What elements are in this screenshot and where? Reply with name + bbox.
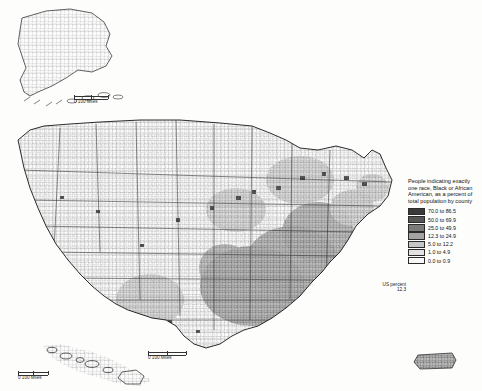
legend-label-0-0: 0.0 to 0.9 [428,258,450,264]
legend-swatch-5-12 [408,241,425,248]
legend-label-50-69: 50.0 to 69.9 [428,217,456,223]
legend-swatch-70-86 [408,208,425,215]
legend-label-5-12: 5.0 to 12.2 [428,241,453,247]
legend-label-70-86: 70.0 to 86.5 [428,208,456,214]
legend-swatch-1-4 [408,249,425,256]
legend-title: People indicating exactly one race, Blac… [408,178,478,204]
alaska-scalebar: 0 100 Miles [74,96,130,104]
legend-item[interactable]: 1.0 to 4.9 [408,248,478,256]
map-legend: People indicating exactly one race, Blac… [408,178,478,265]
legend-label-25-49: 25.0 to 49.9 [428,225,456,231]
legend-class-list: 70.0 to 86.5 50.0 to 69.9 25.0 to 49.9 1… [408,207,478,264]
legend-item[interactable]: 50.0 to 69.9 [408,216,478,224]
legend-swatch-0-0 [408,257,425,264]
conus-scalebar: 0 100 Miles [148,352,208,360]
legend-item[interactable]: 0.0 to 0.9 [408,257,478,265]
legend-swatch-25-49 [408,224,425,231]
hawaii-inset [40,340,160,390]
legend-label-12-24: 12.3 to 24.9 [428,233,456,239]
national-percent-value: 12.3 [360,287,406,292]
legend-item[interactable]: 25.0 to 49.9 [408,224,478,232]
legend-item[interactable]: 5.0 to 12.2 [408,240,478,248]
legend-item[interactable]: 70.0 to 86.5 [408,207,478,215]
map-page: 0 100 Miles 0 100 Miles 0 100 Miles US p… [0,0,482,391]
hawaii-scalebar: 0 100 Miles [18,372,74,380]
alaska-inset [10,5,120,105]
legend-swatch-12-24 [408,232,425,239]
legend-swatch-50-69 [408,216,425,223]
national-percent-annotation: US percent 12.3 [360,282,406,293]
legend-item[interactable]: 12.3 to 24.9 [408,232,478,240]
legend-label-1-4: 1.0 to 4.9 [428,249,450,255]
puerto-rico-inset [410,350,460,372]
